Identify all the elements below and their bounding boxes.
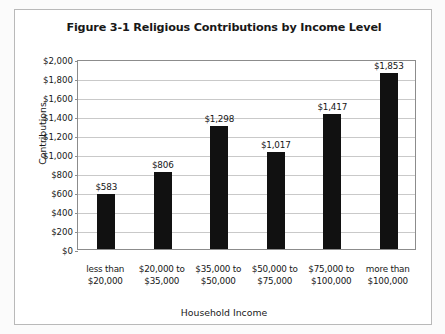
y-axis-tick-label: $600 xyxy=(51,189,73,199)
bar-value-label: $583 xyxy=(95,182,117,192)
y-axis-tick-label: $200 xyxy=(51,227,73,237)
bar-value-label: $1,417 xyxy=(317,102,347,112)
y-axis-tick-label: $1,000 xyxy=(43,151,73,161)
x-axis-category-label: less than$20,000 xyxy=(77,264,134,287)
y-axis-tick-mark xyxy=(75,251,78,252)
x-axis-category-label-line: $75,000 to xyxy=(303,264,360,276)
x-axis-category-label: $35,000 to$50,000 xyxy=(190,264,247,287)
bar[interactable] xyxy=(154,172,172,249)
bar-slot: $1,298 xyxy=(191,61,248,249)
y-axis-tick-label: $800 xyxy=(51,170,73,180)
chart-title: Figure 3-1 Religious Contributions by In… xyxy=(15,21,433,34)
x-axis-category-label-line: $35,000 xyxy=(134,276,191,288)
y-axis-tick-label: $1,800 xyxy=(43,75,73,85)
x-axis-category-label: $50,000 to$75,000 xyxy=(247,264,304,287)
bar-series: $583$806$1,298$1,017$1,417$1,853 xyxy=(78,61,415,249)
bar-value-label: $1,017 xyxy=(261,140,291,150)
x-axis-category-label-line: $75,000 xyxy=(247,276,304,288)
x-axis-category-label-line: $20,000 xyxy=(77,276,134,288)
bar[interactable] xyxy=(97,194,115,249)
x-axis-category-label-line: $100,000 xyxy=(303,276,360,288)
y-axis-tick-label: $1,200 xyxy=(43,132,73,142)
bar-slot: $583 xyxy=(78,61,135,249)
x-axis-category-label: $20,000 to$35,000 xyxy=(134,264,191,287)
bar[interactable] xyxy=(267,152,285,249)
x-axis-category-label-line: less than xyxy=(77,264,134,276)
scanned-page: Figure 3-1 Religious Contributions by In… xyxy=(0,0,445,334)
chart-frame: Figure 3-1 Religious Contributions by In… xyxy=(14,9,432,325)
x-axis-category-label-line: more than xyxy=(360,264,417,276)
x-axis-category-label-line: $50,000 xyxy=(190,276,247,288)
x-axis-category-label-line: $35,000 to xyxy=(190,264,247,276)
y-axis-tick-label: $2,000 xyxy=(43,56,73,66)
bar[interactable] xyxy=(380,73,398,249)
bar-slot: $1,853 xyxy=(361,61,418,249)
x-axis-title: Household Income xyxy=(15,307,433,318)
bar-slot: $1,417 xyxy=(304,61,361,249)
x-axis-category-label-line: $100,000 xyxy=(360,276,417,288)
y-axis-tick-label: $0 xyxy=(62,246,73,256)
x-axis-category-label: more than$100,000 xyxy=(360,264,417,287)
x-axis-category-labels: less than$20,000$20,000 to$35,000$35,000… xyxy=(77,264,416,302)
x-axis-category-label-line: $20,000 to xyxy=(134,264,191,276)
bar-value-label: $806 xyxy=(152,160,174,170)
y-axis-tick-label: $1,400 xyxy=(43,113,73,123)
bar[interactable] xyxy=(323,114,341,249)
y-axis-tick-label: $400 xyxy=(51,208,73,218)
bar-value-label: $1,853 xyxy=(374,61,404,71)
bar-slot: $1,017 xyxy=(248,61,305,249)
y-axis-tick-label: $1,600 xyxy=(43,94,73,104)
plot-area: $2,000$1,800$1,600$1,400$1,200$1,000$800… xyxy=(77,60,416,250)
bar[interactable] xyxy=(210,126,228,249)
x-axis-category-label-line: $50,000 to xyxy=(247,264,304,276)
x-axis-category-label: $75,000 to$100,000 xyxy=(303,264,360,287)
bar-slot: $806 xyxy=(135,61,192,249)
bar-value-label: $1,298 xyxy=(204,114,234,124)
